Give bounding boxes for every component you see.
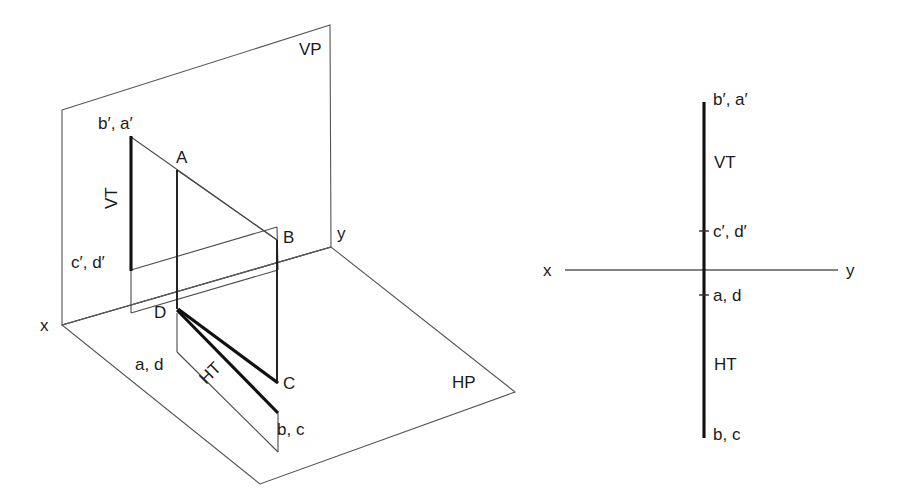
label-HP: HP xyxy=(452,373,476,392)
label-VP: VP xyxy=(299,40,322,59)
label-point-bc-orthographic: b, c xyxy=(713,425,741,444)
label-HT-pictorial: HT xyxy=(195,358,224,387)
label-point-ad-pictorial: a, d xyxy=(135,355,163,374)
lamina-edge-D-C xyxy=(178,309,278,383)
label-point-B: B xyxy=(283,228,294,247)
label-point-ba-prime-orthographic: b′, a′ xyxy=(713,90,748,109)
technical-drawing-canvas: VP HP x y VT HT b′, a′ A B c′, d′ D C a,… xyxy=(0,0,901,493)
construction-line-ad-to-bc xyxy=(177,352,278,452)
lamina-edge-a-to-b xyxy=(177,170,277,240)
label-VT-orthographic: VT xyxy=(714,153,736,172)
label-axis-x-orthographic: x xyxy=(543,261,552,280)
label-point-cd-prime-orthographic: c′, d′ xyxy=(713,222,747,241)
label-point-ba-prime-pictorial: b′, a′ xyxy=(98,114,133,133)
vertical-plane-outline xyxy=(62,25,331,325)
orthographic-view: x y VT HT b′, a′ c′, d′ a, d b, c xyxy=(543,90,855,444)
label-VT-pictorial: VT xyxy=(102,187,121,209)
construction-line-cd-to-vp-edge xyxy=(131,227,277,270)
label-HT-orthographic: HT xyxy=(714,355,737,374)
label-point-cd-prime-pictorial: c′, d′ xyxy=(71,253,105,272)
pictorial-view: VP HP x y VT HT b′, a′ A B c′, d′ D C a,… xyxy=(40,25,515,484)
label-point-ad-orthographic: a, d xyxy=(713,286,741,305)
label-point-A: A xyxy=(176,148,188,167)
label-point-bc-pictorial: b, c xyxy=(277,420,305,439)
label-axis-y-pictorial: y xyxy=(337,224,346,243)
label-point-D: D xyxy=(154,303,166,322)
label-axis-y-orthographic: y xyxy=(846,261,855,280)
horizontal-plane-outline xyxy=(62,247,515,484)
horizontal-trace-HT xyxy=(177,310,278,413)
label-point-C: C xyxy=(283,374,295,393)
label-axis-x-pictorial: x xyxy=(40,316,49,335)
figure-root: VP HP x y VT HT b′, a′ A B c′, d′ D C a,… xyxy=(0,0,901,493)
